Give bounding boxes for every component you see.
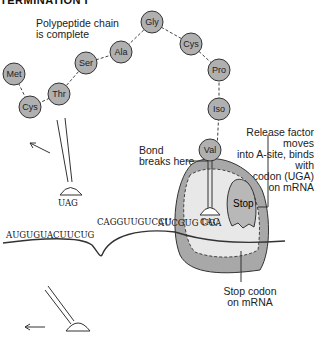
- aa-thr: Thr: [48, 83, 70, 105]
- aa-cys2: Cys: [180, 33, 202, 55]
- svg-text:Ala: Ala: [114, 47, 127, 57]
- aa-gly: Gly: [141, 11, 163, 33]
- ribosome: Stop: [175, 135, 269, 282]
- svg-text:Met: Met: [6, 69, 22, 79]
- mrna-sequence-left: AUGUGUACUUCUG: [5, 230, 95, 240]
- svg-text:Val: Val: [204, 145, 216, 155]
- stop-label: Stop: [233, 198, 254, 209]
- ribosome-anticodon: CAC: [200, 217, 219, 227]
- aa-ser: Ser: [75, 52, 97, 74]
- aa-pro: Pro: [208, 59, 230, 81]
- aa-cys1: Cys: [19, 96, 41, 118]
- svg-text:Cys: Cys: [22, 102, 38, 112]
- amino-acid-chain: Met Cys Thr Ser Ala Gly Cys Pro Iso Val: [3, 11, 230, 161]
- svg-text:Cys: Cys: [183, 39, 199, 49]
- aa-val: Val: [199, 139, 221, 161]
- termination-diagram: Stop AUGUGUACUUCUG CAGGUUGUCCU AUCGUG UG…: [0, 0, 317, 354]
- svg-text:Thr: Thr: [52, 89, 66, 99]
- trna-anticodon: UAG: [58, 198, 78, 208]
- aa-ala: Ala: [110, 41, 132, 63]
- svg-text:Gly: Gly: [145, 17, 159, 27]
- aa-iso: Iso: [208, 98, 230, 120]
- svg-text:Iso: Iso: [213, 104, 225, 114]
- svg-text:Ser: Ser: [79, 58, 93, 68]
- released-trna: UAG: [25, 118, 90, 331]
- svg-text:Pro: Pro: [212, 65, 226, 75]
- aa-met: Met: [3, 63, 25, 85]
